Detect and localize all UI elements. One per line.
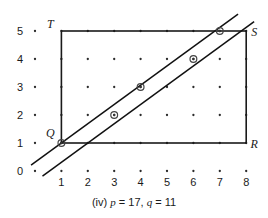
lattice-dot — [87, 114, 89, 116]
lattice-dot — [139, 170, 141, 172]
lattice-dot — [219, 58, 221, 60]
vertex-label-Q: Q — [46, 126, 55, 140]
lattice-dot — [113, 86, 115, 88]
x-axis-tick-label: 8 — [243, 176, 249, 188]
lattice-dot — [192, 170, 194, 172]
lattice-dot-grid — [34, 30, 248, 172]
lattice-dot — [34, 114, 36, 116]
lattice-dot — [139, 114, 141, 116]
lattice-dot — [34, 86, 36, 88]
y-axis-tick-label: 3 — [17, 81, 23, 93]
caption-p-variable: p — [110, 196, 116, 208]
lattice-dot — [60, 170, 62, 172]
caption-q-variable: q — [147, 196, 153, 208]
vertex-label-T: T — [47, 17, 55, 31]
marked-lattice-points — [58, 28, 223, 147]
vertex-label-S: S — [251, 25, 257, 39]
y-axis-tick-label: 4 — [17, 53, 23, 65]
x-axis-tick-label: 1 — [58, 176, 64, 188]
lattice-diagram: 12345678 012345 TSRQ — [0, 0, 268, 218]
lattice-dot — [87, 58, 89, 60]
marked-lattice-point-center — [113, 114, 115, 116]
marked-lattice-point-center — [139, 86, 141, 88]
y-axis-tick-label: 2 — [17, 109, 23, 121]
x-axis-tick-label: 5 — [164, 176, 170, 188]
lattice-dot — [34, 30, 36, 32]
lattice-dot — [219, 86, 221, 88]
marked-lattice-point-center — [219, 30, 221, 32]
boundary-lines — [31, 14, 254, 176]
lattice-dot — [219, 170, 221, 172]
caption-p-value: = 17, — [119, 196, 144, 208]
x-axis-tick-label: 2 — [85, 176, 91, 188]
marked-lattice-point-center — [60, 142, 62, 144]
lattice-dot — [166, 58, 168, 60]
lattice-dot — [166, 114, 168, 116]
y-axis-tick-label: 1 — [17, 137, 23, 149]
lower-line — [42, 22, 254, 176]
x-axis-tick-label: 6 — [190, 176, 196, 188]
caption-index: (iv) — [92, 196, 107, 208]
lattice-dot — [219, 114, 221, 116]
x-axis-tick-label: 3 — [111, 176, 117, 188]
vertex-label-R: R — [250, 137, 259, 151]
marked-lattice-point-center — [192, 58, 194, 60]
x-axis-tick-label: 7 — [217, 176, 223, 188]
lattice-dot — [34, 170, 36, 172]
x-axis-tick-labels: 12345678 — [58, 176, 249, 188]
lattice-dot — [192, 86, 194, 88]
y-axis-tick-label: 0 — [17, 165, 23, 177]
lattice-dot — [87, 86, 89, 88]
lattice-dot — [113, 170, 115, 172]
y-axis-tick-labels: 012345 — [17, 25, 23, 177]
y-axis-tick-label: 5 — [17, 25, 23, 37]
lattice-dot — [192, 114, 194, 116]
figure-caption: (iv) p = 17, q = 11 — [0, 196, 268, 208]
lattice-dot — [34, 58, 36, 60]
lattice-dot — [87, 170, 89, 172]
caption-q-value: = 11 — [155, 196, 176, 208]
x-axis-tick-label: 4 — [138, 176, 144, 188]
lattice-dot — [113, 58, 115, 60]
lattice-dot — [166, 170, 168, 172]
lattice-point-figure: 12345678 012345 TSRQ (iv) p = 17, q = 11 — [0, 0, 268, 218]
lattice-dot — [245, 170, 247, 172]
lattice-dot — [139, 58, 141, 60]
lattice-dot — [34, 142, 36, 144]
